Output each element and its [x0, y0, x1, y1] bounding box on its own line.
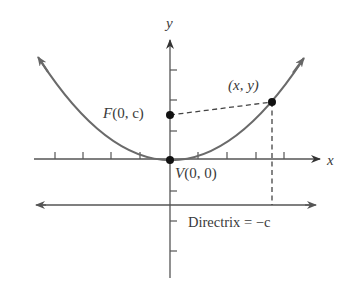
general-point: [268, 98, 276, 106]
focus-point: [166, 111, 174, 119]
x-axis: [34, 152, 320, 159]
curve-arrow-right-icon: [293, 58, 304, 73]
parabola-diagram: x y Directrix = −c F(0, c) V(0, 0) (x, y…: [0, 0, 355, 291]
y-axis-label: y: [164, 15, 173, 31]
x-axis-label: x: [326, 152, 334, 168]
focus-coords: (0, c): [112, 105, 144, 122]
focus-label: F(0, c): [102, 105, 144, 122]
curve-arrow-left-icon: [38, 57, 48, 72]
focus-distance-dashed-line: [170, 102, 272, 115]
vertex-point: [166, 156, 174, 164]
vertex-coords: (0, 0): [184, 165, 217, 182]
vertex-label: V(0, 0): [175, 165, 217, 182]
parabola-curve: [40, 60, 302, 160]
directrix-label: Directrix = −c: [188, 214, 270, 230]
general-point-label: (x, y): [228, 77, 259, 94]
